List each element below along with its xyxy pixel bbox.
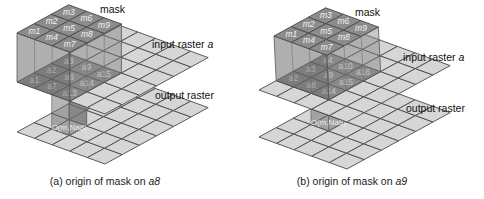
input-raster-label-text: input raster (403, 51, 458, 63)
mask-cell-label: m3 (320, 10, 332, 20)
caption: (b) origin of mask on a9 (297, 175, 407, 187)
mask-cell-label: m1 (28, 26, 40, 36)
caption-var: a9 (395, 175, 407, 187)
caption-text: (b) origin of mask on (297, 175, 396, 187)
mask-cell-label: m9 (355, 23, 367, 33)
mask-cell-label: m4 (303, 35, 315, 45)
panel-a: O(m,Na8)a1a2a3a7a8a9a13a14a15m1m2m3m4m5m… (17, 3, 214, 187)
mask-cell-label: m5 (63, 23, 75, 33)
caption-text: (a) origin of mask on (50, 175, 149, 187)
mask-cell-label: m7 (64, 39, 76, 49)
mask-cell-label: m5 (320, 26, 332, 36)
mask-label: mask (355, 6, 381, 18)
mask-cell-label: m7 (321, 42, 333, 52)
mask-cell-label: m6 (337, 16, 349, 26)
mask-cell-label: m2 (303, 19, 315, 29)
mask-operation-diagram: O(m,Na8)a1a2a3a7a8a9a13a14a15m1m2m3m4m5m… (0, 0, 484, 199)
mask-cell-label: m8 (338, 32, 350, 42)
mask-cell-label: m4 (46, 32, 58, 42)
input-raster-label: input raster a (403, 51, 464, 63)
output-raster-label: output raster (155, 89, 214, 101)
input-raster-label: input raster a (152, 38, 213, 50)
mask-cell-label: m2 (46, 16, 58, 26)
input-raster-var: a (458, 51, 464, 63)
panel-b: O(m,Na9)a2a3a4a8a9a10a14a15a16m1m2m3m4m5… (259, 6, 465, 187)
mask-cell-label: m8 (81, 29, 93, 39)
mask-cell-label: m1 (285, 29, 297, 39)
output-raster-label: output raster (406, 102, 465, 114)
caption: (a) origin of mask on a8 (50, 175, 160, 187)
mask-cell-label: m3 (63, 7, 75, 17)
input-raster-var: a (207, 38, 213, 50)
caption-var: a8 (148, 175, 160, 187)
input-raster-label-text: input raster (152, 38, 207, 50)
mask-cell-label: m9 (98, 20, 110, 30)
mask-cell-label: m6 (80, 13, 92, 23)
mask-label: mask (100, 3, 126, 15)
output-cell-label: O(m,Na8) (52, 123, 87, 132)
